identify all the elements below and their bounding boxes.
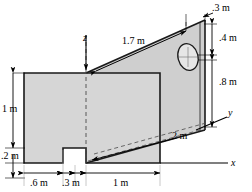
- dim-label-06m: .6 m: [30, 178, 48, 188]
- dim-label-1m-horiz: 1 m: [113, 178, 128, 188]
- dim-label-1m-vert: 1 m: [2, 104, 17, 114]
- axis-label-x: x: [231, 158, 235, 168]
- dim-label-04m: .4 m: [219, 33, 237, 43]
- dim-label-2m: 2 m: [172, 131, 187, 141]
- dim-label-02m: .2 m: [1, 151, 19, 161]
- axis-label-z: z: [83, 33, 87, 43]
- dim-label-1-7m: 1.7 m: [122, 36, 145, 46]
- axis-label-y: y: [228, 108, 232, 118]
- dim-label-08m: .8 m: [219, 77, 237, 87]
- dim-label-03m-top: .3 m: [212, 3, 230, 13]
- dim-label-03m-bottom: .3 m: [62, 178, 80, 188]
- figure-canvas: .3 m .4 m .8 m 1.7 m 2 m 1 m .2 m .6 m .…: [0, 0, 252, 192]
- isometric-drawing: [0, 0, 252, 192]
